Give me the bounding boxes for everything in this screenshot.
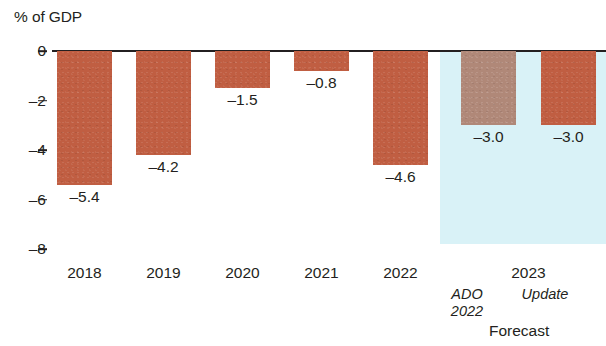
bar-value-label: –1.5 [203, 91, 282, 109]
bar-value-label: –5.4 [45, 188, 124, 206]
bar-value-label: –3.0 [449, 128, 528, 146]
ado-sublabel-line1: ADO [451, 286, 482, 302]
bar-value-label: –3.0 [529, 128, 606, 146]
bar-fill [373, 51, 428, 165]
bar-value-label: –0.8 [282, 74, 361, 92]
bar-fill [541, 51, 596, 125]
bar [57, 51, 112, 185]
y-axis-tick-mark [38, 100, 47, 102]
bar-fill [215, 51, 270, 88]
y-axis-tick-mark [38, 249, 47, 251]
y-axis-tick-mark [38, 149, 47, 151]
bar-value-label: –4.2 [124, 158, 203, 176]
bar [215, 51, 270, 88]
bar-fill [57, 51, 112, 185]
bar-fill [136, 51, 191, 155]
chart-container: % of GDP 0–2–4–6–8 –5.4–4.2–1.5–0.8–4.6–… [0, 0, 606, 346]
x-axis-label: 2019 [121, 264, 206, 282]
update-sublabel: Update [505, 286, 585, 303]
bar [136, 51, 191, 155]
ado-2022-sublabel: ADO 2022 [432, 286, 502, 320]
x-axis-label: 2023 [456, 264, 601, 282]
x-axis-label: 2021 [279, 264, 364, 282]
bar-fill [461, 51, 516, 125]
bar [294, 51, 349, 71]
ado-sublabel-line2: 2022 [451, 303, 483, 319]
bar [461, 51, 516, 125]
x-axis-label: 2020 [200, 264, 285, 282]
bar [373, 51, 428, 165]
y-axis-tick-mark [38, 50, 47, 52]
bar [541, 51, 596, 125]
bar-fill [294, 51, 349, 71]
x-axis-label: 2022 [358, 264, 443, 282]
x-axis-label: 2018 [42, 264, 127, 282]
bar-value-label: –4.6 [361, 168, 440, 186]
y-axis-title: % of GDP [14, 8, 82, 26]
forecast-label: Forecast [489, 322, 549, 340]
